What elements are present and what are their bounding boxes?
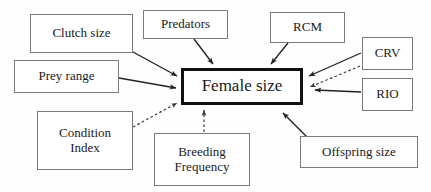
node-clutch-size-label: Clutch size bbox=[49, 26, 113, 40]
edge-crv-to-female-size-dashed bbox=[310, 66, 360, 87]
diagram-canvas: Clutch size Prey range Predators RCM CRV… bbox=[0, 0, 431, 192]
node-female-size-label: Female size bbox=[199, 77, 286, 95]
node-rio[interactable]: RIO bbox=[362, 78, 413, 111]
node-rio-label: RIO bbox=[373, 87, 401, 101]
edge-offspring-size-to-female-size bbox=[283, 113, 307, 137]
node-crv-label: CRV bbox=[372, 46, 404, 60]
edge-crv-to-female-size bbox=[309, 53, 361, 76]
edge-clutch-size-to-female-size bbox=[133, 52, 177, 76]
node-prey-range-label: Prey range bbox=[36, 69, 98, 83]
node-offspring-size-label: Offspring size bbox=[319, 145, 399, 159]
node-rcm-label: RCM bbox=[290, 20, 325, 34]
edge-rio-to-female-size bbox=[315, 90, 361, 92]
node-breeding-frequency[interactable]: Breeding Frequency bbox=[154, 133, 250, 186]
node-condition-index[interactable]: Condition Index bbox=[37, 111, 133, 170]
edge-prey-range-to-female-size bbox=[119, 78, 176, 88]
edge-rcm-to-female-size bbox=[271, 43, 288, 64]
node-female-size[interactable]: Female size bbox=[181, 68, 303, 105]
node-breeding-frequency-label: Breeding Frequency bbox=[172, 145, 233, 173]
node-condition-index-label: Condition Index bbox=[56, 126, 114, 154]
node-clutch-size[interactable]: Clutch size bbox=[30, 14, 133, 53]
node-crv[interactable]: CRV bbox=[362, 37, 413, 70]
node-rcm[interactable]: RCM bbox=[270, 12, 345, 43]
node-predators-label: Predators bbox=[158, 17, 213, 31]
node-prey-range[interactable]: Prey range bbox=[14, 60, 119, 93]
edge-condition-index-to-female-size bbox=[133, 103, 177, 127]
node-predators[interactable]: Predators bbox=[143, 10, 228, 39]
node-offspring-size[interactable]: Offspring size bbox=[300, 136, 418, 168]
edge-predators-to-female-size bbox=[194, 39, 213, 64]
